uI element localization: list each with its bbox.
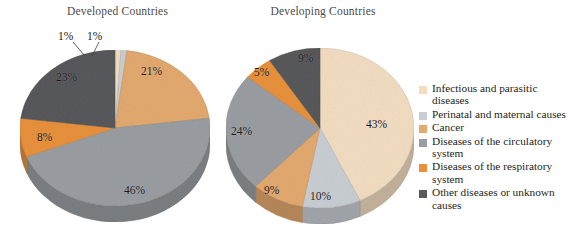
chart-title-developing: Developing Countries: [228, 5, 418, 17]
slice-label-developing-infectious: 43%: [366, 118, 387, 130]
slice-label-developed-cancer: 21%: [141, 65, 162, 77]
legend-item-label: Diseases of the circulatory system: [432, 135, 571, 160]
slice-label-developed-perinatal: 1%: [87, 30, 102, 42]
slice-label-developing-cancer: 9%: [264, 184, 279, 196]
slice-label-developing-other: 9%: [298, 52, 313, 64]
pie-slice-top: [115, 51, 209, 128]
legend-item-label: Infectious and parasitic diseases: [432, 82, 571, 107]
slice-label-developing-respiratory: 5%: [254, 66, 269, 78]
chart-title-developed: Developed Countries: [0, 5, 235, 17]
legend-item-label: Cancer: [432, 121, 464, 133]
pie-slice-top: [21, 50, 115, 128]
legend-swatch-icon: [419, 139, 427, 147]
legend-item-label: Other diseases or unknown causes: [432, 186, 571, 211]
legend-swatch-icon: [419, 125, 427, 133]
slice-label-developing-perinatal: 10%: [310, 190, 331, 202]
legend-item-cancer[interactable]: Cancer: [419, 121, 571, 133]
slice-label-developed-respiratory: 8%: [37, 131, 52, 143]
legend-item-label: Diseases of the respiratory system: [432, 160, 571, 185]
slice-label-developed-other: 23%: [56, 71, 77, 83]
legend-item-label: Perinatal and maternal causes: [432, 108, 566, 120]
pie-right-svg: [224, 32, 420, 232]
legend-swatch-icon: [419, 190, 427, 198]
slice-label-developing-circulatory: 24%: [231, 125, 252, 137]
legend-swatch-icon: [419, 86, 427, 94]
legend-item-respiratory[interactable]: Diseases of the respiratory system: [419, 160, 571, 185]
legend-item-infectious[interactable]: Infectious and parasitic diseases: [419, 82, 571, 107]
legend-swatch-icon: [419, 164, 427, 172]
legend-swatch-icon: [419, 112, 427, 120]
legend-item-circulatory[interactable]: Diseases of the circulatory system: [419, 135, 571, 160]
pie-chart-figure: Developed Countries Developing Countries: [0, 0, 575, 245]
legend-item-perinatal[interactable]: Perinatal and maternal causes: [419, 108, 571, 120]
slice-label-developed-infectious: 1%: [58, 30, 73, 42]
chart-legend: Infectious and parasitic diseases Perina…: [419, 82, 571, 212]
slice-label-developed-circulatory: 46%: [124, 184, 145, 196]
pie-chart-developing: [224, 32, 420, 232]
legend-item-other[interactable]: Other diseases or unknown causes: [419, 186, 571, 211]
